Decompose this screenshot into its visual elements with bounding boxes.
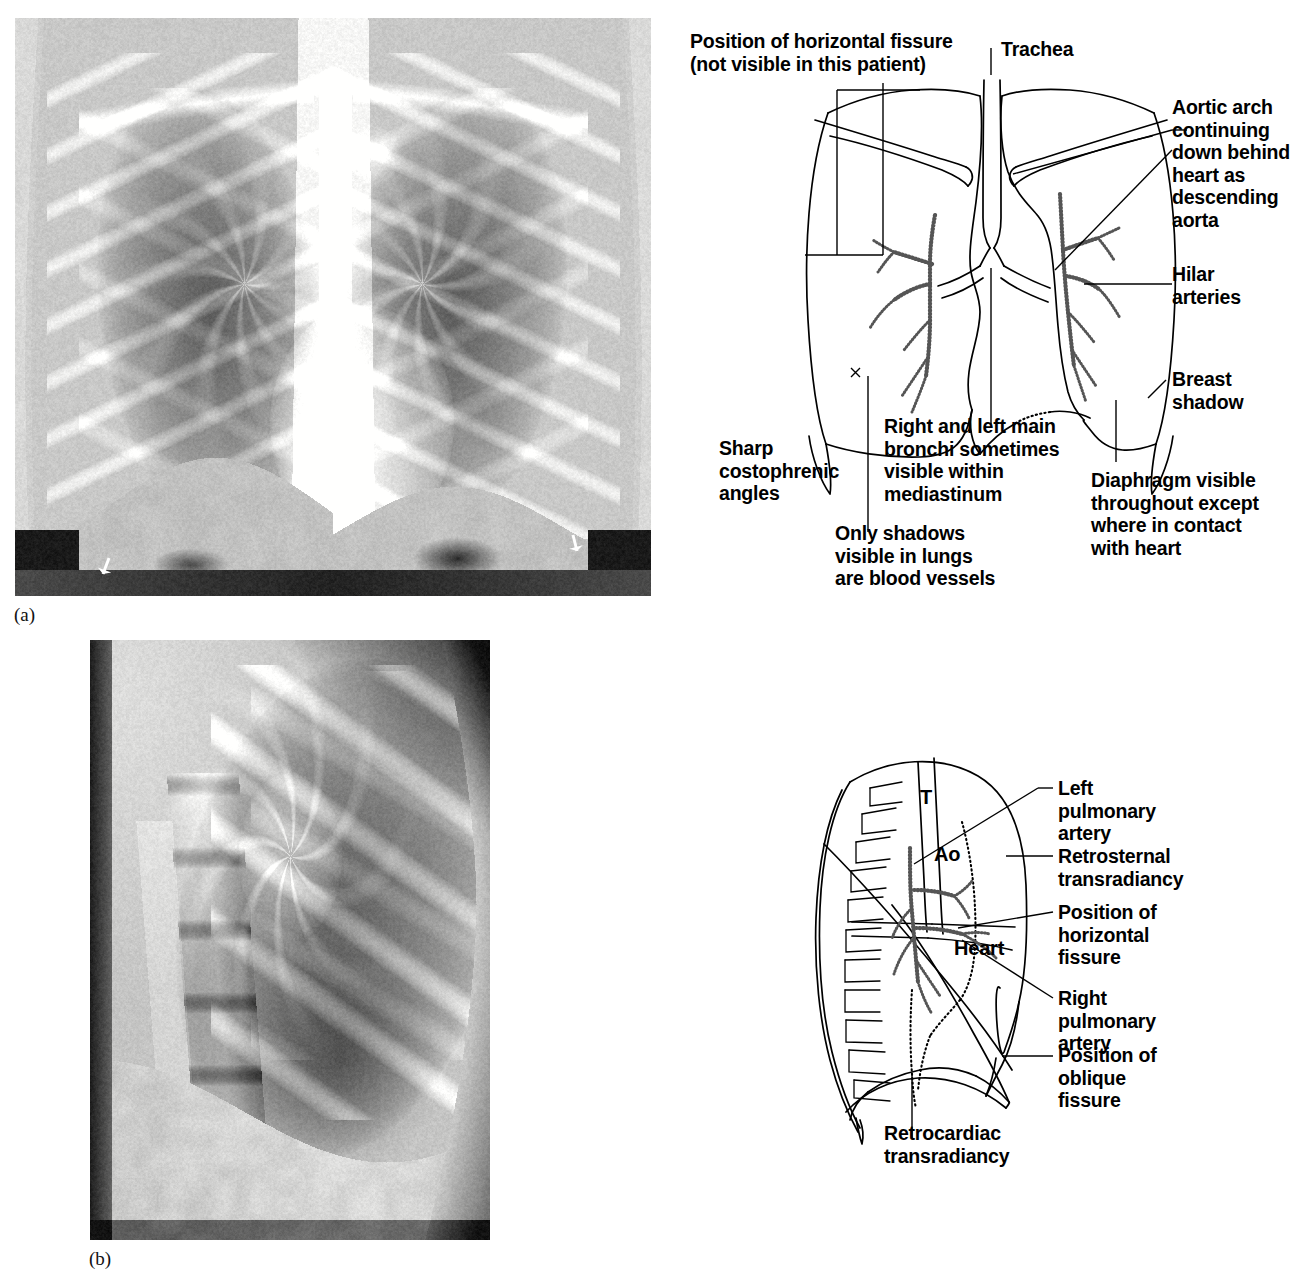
label-oblique-fissure: Position of oblique fissure [1058, 1044, 1157, 1112]
label-blood-vessels: Only shadows visible in lungs are blood … [835, 522, 995, 590]
label-hilar-arteries: Hilar arteries [1172, 263, 1241, 308]
label-main-bronchi: Right and left main bronchi sometimes vi… [884, 415, 1059, 505]
label-heart-marker: Heart [954, 937, 1004, 960]
panel-a-letter: (a) [14, 604, 35, 626]
label-left-pulmonary-artery: Left pulmonary artery [1058, 777, 1156, 845]
figure-page: (a) (b) [0, 0, 1307, 1271]
lateral-chest-radiograph [90, 640, 490, 1240]
label-aorta-marker: Ao [934, 843, 960, 866]
label-retrosternal-transradiancy: Retrosternal transradiancy [1058, 845, 1183, 890]
label-retrocardiac-transradiancy: Retrocardiac transradiancy [884, 1122, 1009, 1167]
label-horizontal-fissure-pa: Position of horizontal fissure (not visi… [690, 30, 953, 75]
pa-chest-radiograph [15, 18, 651, 596]
panel-b-letter: (b) [89, 1248, 111, 1270]
label-trachea-marker: T [920, 786, 932, 809]
label-costophrenic-angles: Sharp costophrenic angles [719, 437, 839, 505]
label-aortic-arch: Aortic arch continuing down behind heart… [1172, 96, 1290, 231]
label-trachea: Trachea [1001, 38, 1073, 61]
label-diaphragm: Diaphragm visible throughout except wher… [1091, 469, 1259, 559]
label-breast-shadow: Breast shadow [1172, 368, 1243, 413]
label-horizontal-fissure-lateral: Position of horizontal fissure [1058, 901, 1157, 969]
